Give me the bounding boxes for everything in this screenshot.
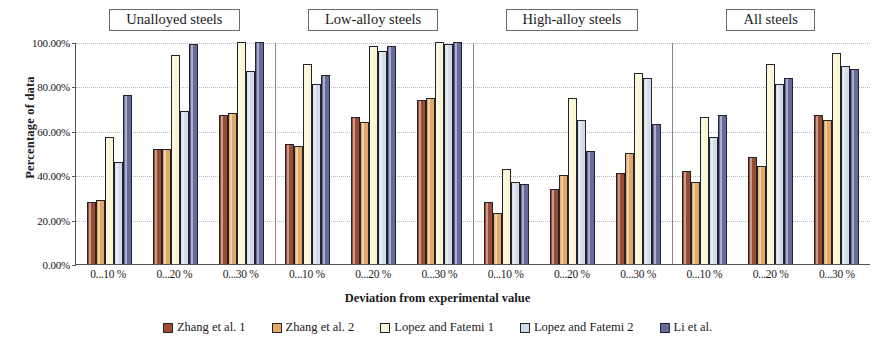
bar-cluster [539, 43, 605, 264]
legend-item[interactable]: Zhang et al. 1 [163, 320, 246, 335]
bar-highlight [777, 85, 779, 264]
y-axis-tick-label: 60.00% [37, 126, 70, 138]
bar-highlight [720, 116, 722, 264]
legend-label: Lopez and Fatemi 2 [534, 320, 634, 335]
legend-item[interactable]: Lopez and Fatemi 2 [520, 320, 634, 335]
bar-highlight [191, 45, 193, 264]
bar-highlight [654, 125, 656, 264]
bar [219, 115, 228, 264]
bar [814, 115, 823, 264]
group-header-label: Low-alloy steels [308, 9, 438, 31]
bar-cluster [473, 43, 539, 264]
bar [586, 151, 595, 264]
bar [114, 162, 123, 264]
bar [417, 100, 426, 264]
legend-item[interactable]: Zhang et al. 2 [272, 320, 355, 335]
legend: Zhang et al. 1Zhang et al. 2Lopez and Fa… [0, 320, 875, 335]
legend-item[interactable]: Li et al. [660, 320, 713, 335]
bar [444, 44, 453, 264]
bar [228, 113, 237, 264]
bar-highlight [768, 65, 770, 264]
x-axis-tick-label: 0...20 % [141, 268, 207, 286]
bar [96, 200, 105, 264]
bar-cluster [341, 43, 407, 264]
bar-chart: Unalloyed steelsLow-alloy steelsHigh-all… [0, 0, 875, 347]
bar [180, 111, 189, 264]
y-axis-tick-label: 80.00% [37, 81, 70, 93]
bar-highlight [419, 101, 421, 264]
bar-highlight [504, 170, 506, 264]
group-header-cell: Unalloyed steels [75, 8, 274, 32]
bar-highlight [561, 176, 563, 264]
bar [766, 64, 775, 264]
bar-highlight [579, 121, 581, 264]
bar-highlight [314, 85, 316, 264]
y-axis-title: Percentage of data [23, 38, 38, 218]
bar [643, 78, 652, 264]
bar [87, 202, 96, 264]
x-axis-tick-label: 0...10 % [671, 268, 737, 286]
bar-cluster [738, 43, 804, 264]
bar [682, 171, 691, 264]
x-axis-tick-label: 0...30 % [804, 268, 870, 286]
bar [369, 46, 378, 264]
bar [691, 182, 700, 264]
x-tick-group: 0...10 %0...20 %0...30 % [75, 268, 274, 286]
legend-swatch-icon [520, 323, 530, 333]
y-axis-tick-label: 100.00% [32, 37, 70, 49]
bar [832, 53, 841, 264]
bar-cluster [142, 43, 208, 264]
bar [255, 42, 264, 264]
bar [550, 189, 559, 264]
bar [625, 153, 634, 264]
bar [559, 175, 568, 264]
bar-highlight [230, 114, 232, 264]
bar [105, 137, 114, 264]
bar [435, 42, 444, 264]
y-axis-tick-mark [72, 265, 76, 266]
plot-area: 0.00%20.00%40.00%60.00%80.00%100.00% [75, 43, 870, 265]
legend-label: Li et al. [674, 320, 713, 335]
x-axis-tick-label: 0...30 % [406, 268, 472, 286]
x-axis-tick-label: 0...10 % [274, 268, 340, 286]
bar-highlight [750, 158, 752, 264]
bar [303, 64, 312, 264]
bar [237, 42, 246, 264]
x-axis-tick-row: 0...10 %0...20 %0...30 %0...10 %0...20 %… [75, 268, 870, 286]
bar [171, 55, 180, 264]
bar-highlight [353, 118, 355, 264]
bar-highlight [221, 116, 223, 264]
x-axis-tick-label: 0...20 % [340, 268, 406, 286]
bar [285, 144, 294, 264]
bar-highlight [89, 203, 91, 264]
bar-highlight [155, 150, 157, 264]
bar-cluster [407, 43, 473, 264]
bar [511, 182, 520, 264]
x-tick-group: 0...10 %0...20 %0...30 % [671, 268, 870, 286]
bar [493, 213, 502, 264]
legend-label: Zhang et al. 2 [286, 320, 355, 335]
bar-highlight [702, 118, 704, 264]
bar-highlight [552, 190, 554, 264]
bar-highlight [522, 185, 524, 264]
bar-highlight [107, 138, 109, 264]
bar [520, 184, 529, 264]
panel-row [76, 43, 870, 264]
bar-highlight [486, 203, 488, 264]
bar-highlight [570, 99, 572, 265]
bar-cluster [76, 43, 142, 264]
bar [360, 122, 369, 264]
bar-highlight [248, 72, 250, 264]
bar-highlight [371, 47, 373, 264]
group-header-label: Unalloyed steels [109, 9, 239, 31]
bar [502, 169, 511, 264]
bar [652, 124, 661, 264]
bar [823, 120, 832, 264]
bar-highlight [627, 154, 629, 264]
bar-highlight [645, 79, 647, 264]
bar [634, 73, 643, 264]
x-axis-tick-label: 0...20 % [539, 268, 605, 286]
bar-highlight [296, 147, 298, 264]
bar-highlight [182, 112, 184, 264]
legend-item[interactable]: Lopez and Fatemi 1 [380, 320, 494, 335]
